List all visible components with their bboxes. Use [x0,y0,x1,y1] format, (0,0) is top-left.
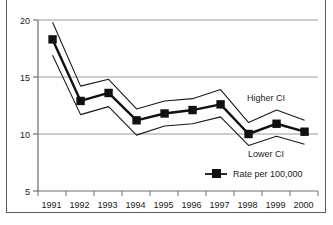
data-point-2000 [300,128,308,136]
x-tick-label-1994: 1994 [126,200,146,210]
x-tick-label-1998: 1998 [238,200,258,210]
chart-canvas: 5101520 19911992199319941995199619971998… [0,0,333,225]
annotation-higher-ci-label: Higher CI [247,93,285,103]
x-tick-label-1993: 1993 [98,200,118,210]
legend-label: Rate per 100,000 [233,169,303,179]
line-higher-ci [53,22,305,122]
data-point-1999 [272,120,280,128]
y-axis-ticks: 5101520 [20,16,38,197]
axes [38,20,318,191]
annotation-lower-ci-label: Lower CI [248,149,284,159]
y-tick-label-10: 10 [20,130,30,140]
x-tick-label-1991: 1991 [42,200,62,210]
data-point-1995 [160,109,168,117]
data-point-1996 [188,106,196,114]
x-tick-label-1995: 1995 [154,200,174,210]
gridlines [38,20,318,134]
data-point-1991 [48,35,56,43]
data-point-1997 [216,100,224,108]
y-tick-label-15: 15 [20,73,30,83]
x-tick-label-2000: 2000 [294,200,314,210]
data-point-markers [48,35,308,138]
line-rate-per-100000 [53,39,305,134]
x-tick-label-1999: 1999 [266,200,286,210]
chart-legend: Rate per 100,000 [205,169,303,179]
data-point-1992 [76,97,84,105]
y-tick-label-20: 20 [20,16,30,26]
x-tick-label-1996: 1996 [182,200,202,210]
legend-square-marker [212,169,221,178]
x-tick-label-1992: 1992 [70,200,90,210]
data-point-1993 [104,89,112,97]
series-rate-per-100000 [53,39,305,134]
chart-figure: 5101520 19911992199319941995199619971998… [0,0,333,225]
x-tick-label-1997: 1997 [210,200,230,210]
series-higher-ci [53,22,305,122]
x-axis-ticks: 1991199219931994199519961997199819992000 [38,191,318,210]
data-point-1998 [244,130,252,138]
data-point-1994 [132,116,140,124]
y-tick-label-5: 5 [25,187,30,197]
annotation-higher-ci: Higher CI [247,93,285,103]
annotation-lower-ci: Lower CI [248,149,284,159]
